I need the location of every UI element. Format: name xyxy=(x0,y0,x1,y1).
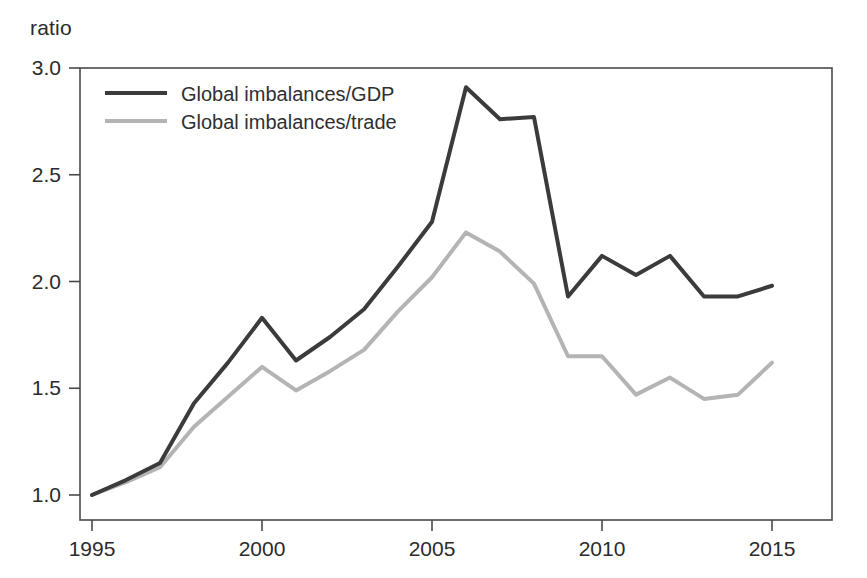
series-line-trade xyxy=(92,232,772,495)
y-tick-label: 3.0 xyxy=(32,56,61,79)
y-tick-label: 2.5 xyxy=(32,163,61,186)
y-tick-label: 2.0 xyxy=(32,270,61,293)
x-tick-label: 2015 xyxy=(749,537,796,560)
legend-label: Global imbalances/trade xyxy=(181,111,397,133)
chart-figure: ratio 1.01.52.02.53.01995200020052010201… xyxy=(0,0,867,578)
legend-label: Global imbalances/GDP xyxy=(181,83,394,105)
x-tick-label: 2005 xyxy=(409,537,456,560)
y-tick-label: 1.0 xyxy=(32,483,61,506)
x-tick-label: 1995 xyxy=(69,537,116,560)
y-tick-label: 1.5 xyxy=(32,376,61,399)
series-line-gdp xyxy=(92,87,772,495)
x-tick-label: 2010 xyxy=(579,537,626,560)
plot-frame xyxy=(80,68,832,520)
x-tick-label: 2000 xyxy=(239,537,286,560)
line-chart: 1.01.52.02.53.019952000200520102015Globa… xyxy=(0,0,867,578)
